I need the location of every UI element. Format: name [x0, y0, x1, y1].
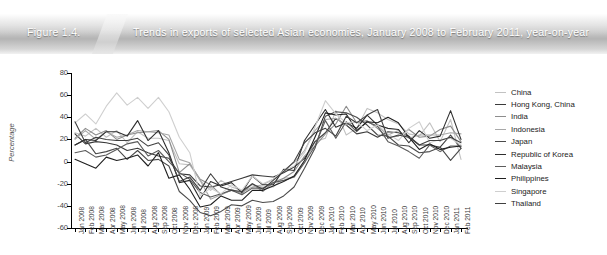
x-axis-tick-label: Sep 2010: [411, 206, 418, 234]
x-axis-tick-label: Feb 2011: [464, 207, 471, 234]
x-axis-tick-mark: [263, 228, 264, 232]
plot-area: [72, 73, 468, 228]
x-axis-tick-mark: [96, 228, 97, 232]
y-axis-tick-mark: [67, 228, 71, 229]
x-axis-tick-label: Jul 2008: [140, 209, 147, 234]
x-axis-tick-label: Apr 2008: [109, 207, 116, 234]
x-axis-tick-mark: [336, 228, 337, 232]
x-axis-tick-label: Jan 2009: [203, 207, 210, 234]
x-axis-tick-label: Feb 2009: [213, 206, 220, 234]
figure-caption: Trends in exports of selected Asian econ…: [133, 26, 589, 38]
x-axis-tick-mark: [461, 228, 462, 232]
x-axis-tick-label: Feb 2010: [338, 206, 345, 234]
y-axis-tick-mark: [67, 184, 71, 185]
legend-item-label: Malaysia: [511, 162, 542, 171]
x-axis-tick-mark: [190, 228, 191, 232]
x-axis-tick-mark: [357, 228, 358, 232]
legend-color-swatch: [495, 166, 506, 167]
x-axis-tick-label: May 2010: [370, 205, 377, 234]
y-axis-labels: 806040200-20-40-60: [30, 60, 68, 255]
x-axis-tick-mark: [148, 228, 149, 232]
y-axis-tick-label: 0: [38, 158, 68, 166]
y-axis-tick-label: 20: [38, 135, 68, 143]
legend-item-label: Japan: [511, 137, 532, 146]
x-axis-tick-label: Jun 2010: [380, 207, 387, 234]
x-axis-tick-mark: [305, 228, 306, 232]
legend-item[interactable]: Indonesia: [495, 123, 607, 135]
y-axis-tick-mark: [67, 73, 71, 74]
x-axis-tick-label: Apr 2009: [234, 207, 241, 234]
chart-legend: ChinaHong Kong, ChinaIndiaIndonesiaJapan…: [495, 86, 607, 210]
legend-item-label: Thailand: [511, 199, 541, 208]
x-axis-tick-label: Jul 2010: [391, 209, 398, 234]
x-axis-tick-mark: [85, 228, 86, 232]
x-axis-tick-label: Aug 2010: [401, 206, 408, 234]
x-axis-tick-mark: [211, 228, 212, 232]
legend-item[interactable]: Malaysia: [495, 160, 607, 172]
x-axis-tick-label: Dec 2008: [192, 206, 199, 234]
y-axis-tick-label: 60: [38, 91, 68, 99]
x-axis-tick-mark: [231, 228, 232, 232]
y-axis-tick-mark: [67, 95, 71, 96]
x-axis-tick-label: Apr 2010: [359, 207, 366, 234]
x-axis-tick-label: Nov 2008: [182, 206, 189, 234]
x-axis-tick-mark: [75, 228, 76, 232]
x-axis-tick-label: Oct 2008: [171, 207, 178, 234]
legend-item[interactable]: India: [495, 111, 607, 123]
legend-item[interactable]: Republic of Korea: [495, 148, 607, 160]
y-axis-tick-mark: [67, 139, 71, 140]
x-axis-tick-mark: [106, 228, 107, 232]
legend-item-label: Hong Kong, China: [511, 100, 575, 109]
x-axis-tick-mark: [138, 228, 139, 232]
x-axis-tick-mark: [325, 228, 326, 232]
x-axis-tick-mark: [242, 228, 243, 232]
series-line: [75, 110, 461, 192]
y-axis-tick-mark: [67, 162, 71, 163]
x-axis-tick-label: Mar 2010: [349, 206, 356, 234]
legend-item[interactable]: Hong Kong, China: [495, 98, 607, 110]
y-axis-tick-mark: [67, 206, 71, 207]
x-axis-tick-label: May 2009: [245, 205, 252, 234]
x-axis-tick-mark: [284, 228, 285, 232]
x-axis-tick-mark: [440, 228, 441, 232]
legend-item-label: Singapore: [511, 187, 547, 196]
x-axis-tick-mark: [294, 228, 295, 232]
x-axis-tick-mark: [158, 228, 159, 232]
legend-color-swatch: [495, 92, 506, 93]
y-axis-tick-label: -40: [38, 202, 68, 210]
legend-color-swatch: [495, 203, 506, 204]
x-axis-tick-label: Nov 2010: [432, 206, 439, 234]
x-axis-tick-label: Jan 2011: [453, 207, 460, 234]
x-axis-tick-mark: [378, 228, 379, 232]
x-axis-tick-label: May 2008: [119, 205, 126, 234]
legend-color-swatch: [495, 178, 506, 179]
x-axis-tick-label: Mar 2009: [224, 206, 231, 234]
x-axis-tick-mark: [367, 228, 368, 232]
legend-item-label: China: [511, 88, 531, 97]
legend-item[interactable]: China: [495, 86, 607, 98]
series-lines: [72, 73, 468, 228]
x-axis-tick-label: Mar 2008: [98, 206, 105, 234]
x-axis-tick-mark: [398, 228, 399, 232]
x-axis-tick-label: Feb 2008: [88, 206, 95, 234]
y-axis-title: Percentage: [7, 123, 16, 161]
x-axis-tick-mark: [169, 228, 170, 232]
x-axis-tick-mark: [419, 228, 420, 232]
y-axis-tick-label: -60: [38, 224, 68, 232]
x-axis-tick-mark: [252, 228, 253, 232]
x-axis-tick-label: Oct 2010: [422, 207, 429, 234]
y-axis-tick-label: 40: [38, 113, 68, 121]
figure-title-banner: Figure 1.4. Trends in exports of selecte…: [0, 14, 607, 54]
x-axis-tick-mark: [346, 228, 347, 232]
x-axis-tick-label: Dec 2010: [443, 206, 450, 234]
y-axis-tick-mark: [67, 117, 71, 118]
legend-item[interactable]: Singapore: [495, 185, 607, 197]
x-axis-tick-mark: [451, 228, 452, 232]
legend-item[interactable]: Philippines: [495, 173, 607, 185]
y-axis-tick-label: -20: [38, 180, 68, 188]
x-axis-tick-label: Sep 2009: [286, 206, 293, 234]
legend-color-swatch: [495, 129, 506, 130]
legend-item[interactable]: Thailand: [495, 198, 607, 210]
x-axis-tick-mark: [117, 228, 118, 232]
legend-item[interactable]: Japan: [495, 136, 607, 148]
